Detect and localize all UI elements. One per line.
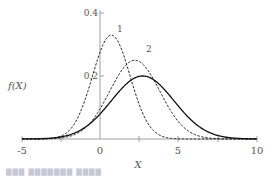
x-tick-label: -5 — [17, 145, 27, 156]
x-tick-label: 5 — [175, 145, 181, 156]
figure-caption: ▇▇▇ ▇▇▇▇▇▇▇ ▇▇▇▇ — [6, 168, 102, 176]
curve-1-dashed — [22, 35, 257, 139]
curve-solid — [22, 76, 257, 139]
x-tick-label: 10 — [251, 145, 264, 156]
chart-canvas: -5 0 5 10 0.4 0.2 X f(X) 1 2 — [0, 0, 272, 177]
curve-2-label: 2 — [146, 44, 152, 54]
curve-1-label: 1 — [117, 24, 123, 34]
curve-2-dashed — [22, 60, 257, 139]
y-tick-label: 0.2 — [84, 71, 98, 81]
x-axis-label: X — [133, 159, 142, 170]
y-axis-label: f(X) — [7, 80, 27, 91]
x-tick-label: 0 — [97, 145, 103, 156]
y-tick-label: 0.4 — [84, 8, 99, 18]
